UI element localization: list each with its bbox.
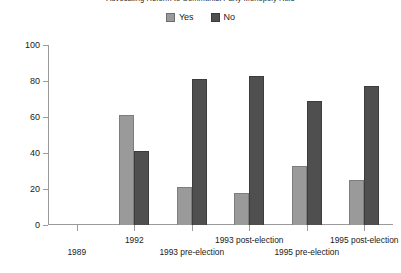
y-axis-tick-label: 100 bbox=[25, 41, 40, 50]
legend-entry-yes: Yes bbox=[166, 13, 194, 22]
bar-no-3 bbox=[249, 76, 264, 225]
x-axis-line bbox=[48, 224, 393, 225]
y-axis-tick: 80 bbox=[43, 81, 48, 82]
y-axis-tick-label: 40 bbox=[30, 149, 40, 158]
bar-yes-4 bbox=[292, 166, 307, 225]
x-axis-category-label: 1993 pre-election bbox=[159, 248, 224, 256]
legend-label-no: No bbox=[224, 13, 236, 22]
y-axis-tick-label: 80 bbox=[30, 77, 40, 86]
legend-swatch-yes-icon bbox=[166, 13, 175, 22]
x-axis-category-label: 1992 bbox=[125, 236, 144, 244]
y-axis-tick: 0 bbox=[43, 225, 48, 226]
bar-no-1 bbox=[134, 151, 149, 225]
bar-yes-2 bbox=[177, 187, 192, 225]
y-axis-tick: 60 bbox=[43, 117, 48, 118]
legend-swatch-no-icon bbox=[211, 13, 220, 22]
bar-yes-3 bbox=[234, 193, 249, 225]
y-axis-tick-label: 20 bbox=[30, 185, 40, 194]
legend-entry-no: No bbox=[211, 13, 236, 22]
chart-legend: Yes No bbox=[0, 13, 401, 22]
bar-yes-5 bbox=[349, 180, 364, 225]
y-axis-tick-label: 0 bbox=[35, 221, 40, 230]
chart-title: Advocating Reform to Communist Party Mon… bbox=[0, 0, 401, 3]
bar-yes-1 bbox=[119, 115, 134, 225]
y-axis-tick: 40 bbox=[43, 153, 48, 154]
plot-area: 020406080100 bbox=[48, 45, 393, 225]
y-axis-tick: 100 bbox=[43, 45, 48, 46]
y-axis-line bbox=[48, 45, 49, 225]
bar-chart: Advocating Reform to Communist Party Mon… bbox=[0, 0, 401, 273]
x-axis-category-label: 1995 pre-election bbox=[274, 248, 339, 256]
x-axis-category-label: 1995 post-election bbox=[330, 236, 398, 244]
x-axis-labels: 198919921993 pre-election1993 post-elect… bbox=[48, 231, 393, 273]
x-axis-category-label: 1993 post-election bbox=[215, 236, 283, 244]
x-axis-category-label: 1989 bbox=[67, 248, 86, 256]
legend-label-yes: Yes bbox=[179, 13, 194, 22]
y-axis-tick: 20 bbox=[43, 189, 48, 190]
y-axis-tick-label: 60 bbox=[30, 113, 40, 122]
bar-no-4 bbox=[307, 101, 322, 225]
bar-no-2 bbox=[192, 79, 207, 225]
bar-no-5 bbox=[364, 86, 379, 225]
